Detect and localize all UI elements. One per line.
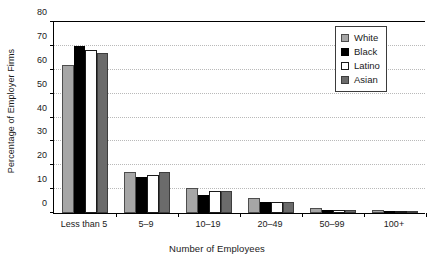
legend-label: Black (354, 47, 377, 57)
x-axis-tick-label: 5–9 (138, 219, 153, 229)
bar-group (186, 22, 232, 213)
bar (384, 211, 396, 213)
x-axis-tick-label: 50–99 (319, 219, 344, 229)
bar (209, 191, 221, 213)
bar (345, 210, 357, 213)
y-axis-tick-label: 70 (37, 31, 47, 41)
bar (147, 175, 159, 213)
bar (310, 208, 322, 213)
bar (85, 50, 97, 213)
bar (248, 198, 260, 213)
y-axis-tick-label: 80 (37, 7, 47, 17)
y-axis-tick-label: 40 (37, 103, 47, 113)
x-axis-title-text: Number of Employees (169, 243, 265, 254)
bar-group (248, 22, 294, 213)
legend-item[interactable]: Black (341, 45, 380, 59)
bar-group (62, 22, 108, 213)
y-axis-tick (50, 164, 54, 165)
legend-swatch-icon (341, 76, 349, 84)
y-axis-tick (50, 21, 54, 22)
x-axis-tick-label: Less than 5 (61, 219, 108, 229)
bar (271, 202, 283, 213)
y-axis-tick (50, 140, 54, 141)
bar-chart-figure: Percentage of Employer Firms 01020304050… (0, 0, 434, 267)
legend-swatch-icon (341, 48, 349, 56)
y-axis-tick-label: 0 (42, 198, 47, 208)
x-axis-tick (116, 213, 117, 217)
legend-swatch-icon (341, 62, 349, 70)
x-axis-tick (240, 213, 241, 217)
y-axis-tick (50, 93, 54, 94)
x-axis-tick (364, 213, 365, 217)
legend-label: Asian (354, 75, 378, 85)
gridline (54, 188, 425, 189)
bar (333, 210, 345, 213)
gridline (54, 140, 425, 141)
bar (395, 211, 407, 213)
y-axis-tick (50, 117, 54, 118)
y-axis-tick-label: 20 (37, 150, 47, 160)
y-axis-tick-label: 10 (37, 174, 47, 184)
x-axis-tick (178, 213, 179, 217)
x-axis-tick-label: 10–19 (195, 219, 220, 229)
bar (124, 172, 136, 213)
bar (159, 172, 171, 213)
bar-group (124, 22, 170, 213)
y-axis-tick (50, 45, 54, 46)
x-axis-tick-label: 100+ (384, 219, 404, 229)
x-axis-title: Number of Employees (0, 243, 434, 254)
y-axis-tick (50, 69, 54, 70)
bar (372, 210, 384, 213)
y-axis-title-text: Percentage of Employer Firms (6, 49, 16, 173)
bar (198, 195, 210, 213)
gridline (54, 117, 425, 118)
bar (407, 211, 419, 213)
bar (322, 210, 334, 213)
bar (221, 191, 233, 213)
bar (97, 53, 109, 213)
x-axis-tick (302, 213, 303, 217)
legend-item[interactable]: Asian (341, 73, 380, 87)
legend: WhiteBlackLatinoAsian (335, 26, 387, 92)
bar (74, 46, 86, 213)
gridline (54, 164, 425, 165)
bar (283, 202, 295, 213)
y-axis-title: Percentage of Employer Firms (2, 0, 20, 222)
gridline (54, 21, 425, 22)
bar (186, 188, 198, 213)
y-axis-tick-label: 30 (37, 126, 47, 136)
bar (62, 65, 74, 213)
bar (260, 202, 272, 213)
bar (136, 177, 148, 213)
y-axis-tick (50, 212, 54, 213)
y-axis-tick-label: 60 (37, 55, 47, 65)
legend-label: White (354, 33, 378, 43)
x-axis-tick (426, 213, 427, 217)
legend-label: Latino (354, 61, 380, 71)
legend-item[interactable]: Latino (341, 59, 380, 73)
x-axis-tick-label: 20–49 (257, 219, 282, 229)
legend-swatch-icon (341, 34, 349, 42)
legend-item[interactable]: White (341, 31, 380, 45)
y-axis-tick (50, 188, 54, 189)
y-axis-tick-label: 50 (37, 79, 47, 89)
gridline (54, 93, 425, 94)
